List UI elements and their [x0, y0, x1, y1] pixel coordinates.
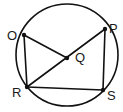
- segments-group: [24, 29, 105, 90]
- point-r-dot: [25, 85, 29, 89]
- point-q-dot: [65, 56, 69, 60]
- point-s-label: S: [107, 88, 116, 103]
- point-s-dot: [101, 88, 105, 92]
- segment-oq: [24, 35, 67, 58]
- segment-or: [24, 35, 27, 87]
- point-p-label: P: [109, 21, 118, 36]
- segment-ps: [103, 29, 105, 90]
- point-r-label: R: [12, 85, 21, 100]
- point-p-dot: [103, 27, 107, 31]
- segment-rs: [27, 87, 103, 90]
- circle-geometry-diagram: OPQRS: [0, 0, 123, 112]
- point-o-dot: [22, 33, 26, 37]
- point-q-label: Q: [75, 50, 85, 65]
- point-o-label: O: [7, 28, 17, 43]
